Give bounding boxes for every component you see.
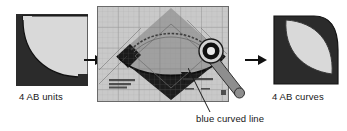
caption-ab-units: 4 AB units <box>19 92 63 102</box>
arrow-center-to-right-icon <box>245 52 267 70</box>
panel-ab-curves <box>272 14 340 86</box>
ab-units-graphic <box>16 14 88 86</box>
panel-ab-units <box>16 14 88 86</box>
caption-ab-curves: 4 AB curves <box>272 92 324 102</box>
ab-curves-graphic <box>272 14 340 86</box>
diagram-canvas: 4 AB units <box>0 0 347 131</box>
annotation-blue-curved-line: blue curved line <box>196 114 264 124</box>
